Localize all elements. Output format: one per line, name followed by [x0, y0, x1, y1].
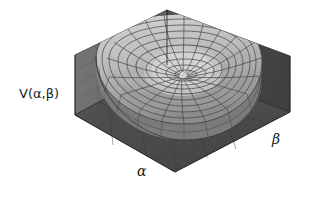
figure-container: V(α,β) α β	[0, 0, 322, 201]
axis-label-alpha: α	[137, 163, 146, 179]
axis-label-v: V(α,β)	[19, 86, 59, 101]
axis-label-beta: β	[272, 131, 280, 147]
